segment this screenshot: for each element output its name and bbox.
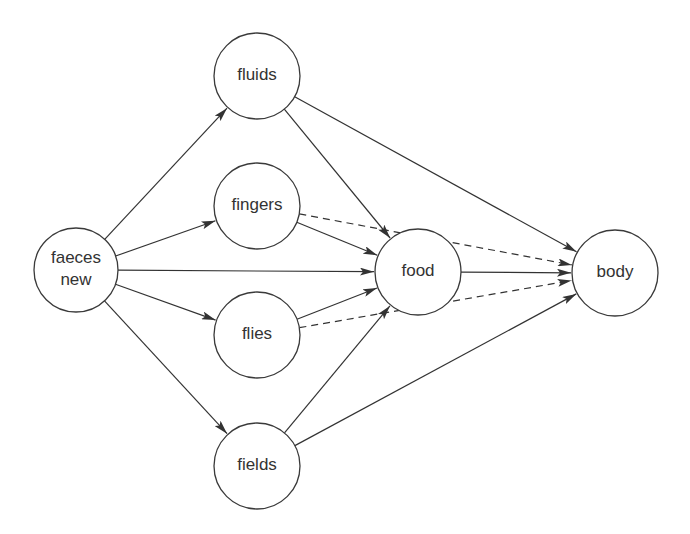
edges-layer — [105, 97, 577, 446]
edge-fluids-to-food — [284, 109, 390, 238]
node-label: fields — [237, 455, 277, 474]
node-fluids: fluids — [214, 33, 300, 119]
node-fingers: fingers — [214, 163, 300, 249]
node-food: food — [375, 229, 461, 315]
edge-food-to-body — [461, 272, 571, 273]
node-flies: flies — [214, 292, 300, 378]
node-label: flies — [242, 324, 272, 343]
node-label: fluids — [237, 65, 277, 84]
f-diagram: faecesnewfluidsfingersfliesfieldsfoodbod… — [0, 0, 690, 534]
edge-faeces-to-food — [118, 270, 374, 272]
edge-faeces-to-flies — [116, 284, 216, 320]
node-label: fingers — [231, 195, 282, 214]
edge-faeces-to-fingers — [116, 221, 216, 256]
edge-faeces-to-fluids — [105, 108, 227, 239]
edge-faeces-to-fields — [105, 301, 228, 434]
edge-fields-to-food — [285, 306, 390, 433]
node-body: body — [572, 230, 658, 316]
node-label: food — [401, 261, 434, 280]
node-label: body — [597, 262, 634, 281]
edge-flies-to-food — [297, 288, 377, 319]
node-fields: fields — [214, 423, 300, 509]
node-label: faeces — [51, 248, 101, 267]
node-label: new — [60, 270, 92, 289]
edge-fingers-to-food — [297, 222, 378, 255]
node-faeces: faecesnew — [34, 228, 118, 312]
